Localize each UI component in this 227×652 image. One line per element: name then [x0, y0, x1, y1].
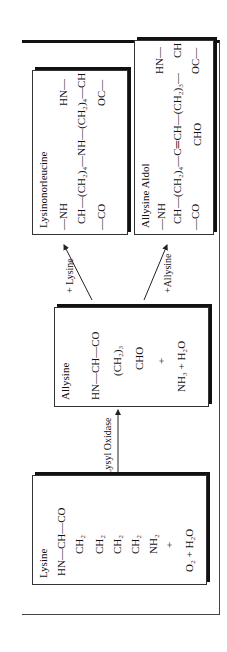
allysine-products: NH₃ + H₂O — [175, 341, 187, 392]
aa-aldehyde: CHO — [191, 123, 203, 146]
lnl-left-nh: —NH — [57, 203, 69, 230]
allysine-box: Allysine HN—CH—CO (CH₂)₃ CHO + NH₃ + H₂O — [54, 307, 209, 407]
allysine-title: Allysine — [59, 363, 71, 400]
aa-left-ch: CH — [171, 209, 183, 224]
lysinonorleucine-box: Lysinonorleucine —NH CH —(CH₂)₄—NH—(CH₂)… — [32, 70, 128, 235]
lnl-right-oc: OC— — [95, 80, 107, 106]
lysine-box: Lysine HN—CH—CO CH₂ CH₂ CH₂ CH₂ NH₂ + O₂… — [32, 475, 207, 585]
plus-lysine-label: + Lysine — [64, 258, 75, 293]
lnl-left-co: —CO — [95, 204, 107, 230]
aa-right-ch: CH — [171, 43, 183, 58]
lysine-chain-3: CH₂ — [111, 535, 123, 554]
lysine-reactants: O₂ + H₂O — [183, 529, 195, 572]
aa-right-oc: OC— — [189, 48, 201, 74]
allysine-aldol-title: Allysine Aldol — [139, 164, 151, 228]
allysine-backbone: HN—CH—CO — [89, 332, 101, 400]
lysine-backbone: HN—CH—CO — [55, 508, 67, 576]
lysyl-oxidase-label: Lysyl Oxidase — [102, 418, 113, 476]
crosslink-diagram: Lysine HN—CH—CO CH₂ CH₂ CH₂ CH₂ NH₂ + O₂… — [22, 35, 222, 615]
plus-allysine-label: +Allysine — [162, 253, 173, 293]
aa-right-hn: HN— — [153, 47, 165, 74]
aa-bridge: —(CH₂)₄—C═CH—(CH₂)₃— — [171, 73, 183, 208]
lysine-plus: + — [163, 542, 175, 548]
allysine-chain: (CH₂)₃ — [111, 346, 123, 376]
lysinonorleucine-title: Lysinonorleucine — [37, 152, 49, 228]
lnl-right-hn: HN— — [57, 79, 69, 106]
allysine-aldol-box: Allysine Aldol —NH CH —(CH₂)₄—C═CH—(CH₂)… — [134, 40, 214, 235]
lysine-amine: NH₂ — [147, 534, 159, 554]
allysine-aldehyde: CHO — [133, 347, 145, 370]
aa-left-nh: —NH — [155, 203, 167, 230]
allysine-plus: + — [155, 358, 167, 364]
lnl-right-ch: CH — [75, 73, 87, 88]
lnl-bridge: —(CH₂)₄—NH—(CH₂)₄— — [75, 88, 87, 208]
lysine-chain-1: CH₂ — [73, 535, 85, 554]
lysine-chain-2: CH₂ — [93, 535, 105, 554]
lysine-chain-4: CH₂ — [129, 535, 141, 554]
aa-left-co: —CO — [189, 204, 201, 230]
lnl-left-ch: CH — [75, 209, 87, 224]
lysine-title: Lysine — [37, 549, 49, 578]
